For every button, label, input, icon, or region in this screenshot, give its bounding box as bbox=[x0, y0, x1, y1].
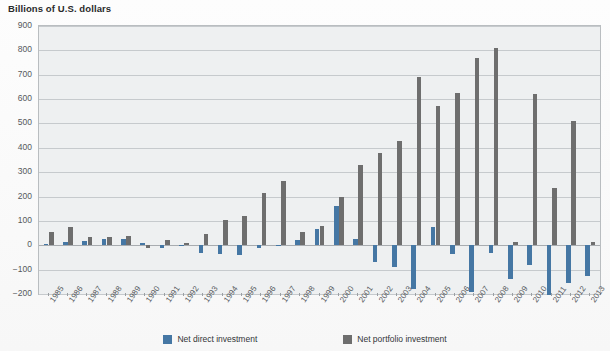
y-axis-tick--200: −200 bbox=[13, 288, 32, 298]
bar-portfolio-1987 bbox=[88, 237, 93, 246]
y-axis-tick-100: 100 bbox=[18, 215, 32, 225]
bar-direct-1987 bbox=[82, 241, 87, 245]
x-tick-mark-2008 bbox=[493, 293, 494, 296]
bar-direct-2001 bbox=[353, 239, 358, 245]
x-tick-mark-2002 bbox=[377, 293, 378, 296]
bar-direct-1994 bbox=[218, 245, 223, 254]
bar-portfolio-1988 bbox=[107, 237, 112, 246]
y-axis-tick-200: 200 bbox=[18, 191, 32, 201]
bar-portfolio-2007 bbox=[475, 58, 480, 246]
y-axis-tick-500: 500 bbox=[18, 117, 32, 127]
bar-direct-1995 bbox=[237, 245, 242, 255]
y-axis-tick-400: 400 bbox=[18, 142, 32, 152]
bar-portfolio-2002 bbox=[378, 153, 383, 246]
bar-portfolio-1998 bbox=[300, 232, 305, 245]
chart-container: Billions of U.S. dollars 900800700600500… bbox=[0, 0, 610, 351]
bar-portfolio-1996 bbox=[262, 193, 267, 245]
bar-direct-2000 bbox=[334, 206, 339, 245]
legend-item-direct[interactable]: Net direct investment bbox=[163, 334, 257, 344]
gridline-300 bbox=[39, 172, 600, 173]
bar-direct-2012 bbox=[566, 245, 571, 283]
legend-swatch-portfolio-icon bbox=[343, 335, 352, 344]
bar-direct-1988 bbox=[102, 239, 107, 245]
bar-direct-2005 bbox=[431, 227, 436, 245]
gridline-200 bbox=[39, 197, 600, 198]
bar-portfolio-1999 bbox=[320, 226, 325, 245]
legend-label-portfolio: Net portfolio investment bbox=[357, 334, 446, 344]
gridline--100 bbox=[39, 270, 600, 271]
bar-portfolio-1991 bbox=[165, 240, 170, 245]
chart-title: Billions of U.S. dollars bbox=[8, 3, 111, 14]
bar-portfolio-1985 bbox=[49, 232, 54, 245]
bar-portfolio-1997 bbox=[281, 181, 286, 246]
y-axis-tick-800: 800 bbox=[18, 44, 32, 54]
gridline-900 bbox=[39, 26, 600, 27]
bar-portfolio-1989 bbox=[126, 236, 131, 246]
x-tick-mark-2011 bbox=[551, 293, 552, 296]
bar-direct-1992 bbox=[179, 245, 184, 246]
bar-portfolio-1994 bbox=[223, 220, 228, 246]
bar-direct-1996 bbox=[257, 245, 262, 247]
bar-direct-1990 bbox=[140, 243, 145, 245]
bar-portfolio-2009 bbox=[513, 242, 518, 246]
y-axis-tick-300: 300 bbox=[18, 166, 32, 176]
bar-portfolio-2010 bbox=[533, 94, 538, 245]
bar-direct-1985 bbox=[44, 244, 49, 245]
x-tick-mark-2005 bbox=[435, 293, 436, 296]
gridline-700 bbox=[39, 75, 600, 76]
gridline-500 bbox=[39, 123, 600, 124]
bar-direct-2002 bbox=[373, 245, 378, 262]
bar-portfolio-1990 bbox=[146, 245, 151, 247]
bar-portfolio-2011 bbox=[552, 188, 557, 245]
x-tick-mark-1991 bbox=[164, 293, 165, 296]
bar-direct-2008 bbox=[489, 245, 494, 252]
y-axis: 9008007006005004003002001000−100−200 bbox=[0, 25, 36, 295]
x-tick-mark-1988 bbox=[106, 293, 107, 296]
bar-portfolio-1992 bbox=[184, 243, 189, 245]
bar-direct-1991 bbox=[160, 245, 165, 247]
gridline-400 bbox=[39, 148, 600, 149]
y-axis-tick-600: 600 bbox=[18, 93, 32, 103]
x-tick-mark-1994 bbox=[222, 293, 223, 296]
y-axis-tick--100: −100 bbox=[13, 264, 32, 274]
bar-direct-1993 bbox=[199, 245, 204, 252]
bar-portfolio-2001 bbox=[358, 165, 363, 245]
bar-direct-1999 bbox=[315, 229, 320, 245]
bar-direct-1997 bbox=[276, 245, 281, 246]
bar-portfolio-2008 bbox=[494, 48, 499, 245]
bar-portfolio-2005 bbox=[436, 106, 441, 245]
bar-direct-1998 bbox=[295, 240, 300, 245]
gridline-800 bbox=[39, 50, 600, 51]
bar-portfolio-2004 bbox=[417, 77, 422, 245]
bar-direct-2003 bbox=[392, 245, 397, 267]
x-tick-mark-1985 bbox=[48, 293, 49, 296]
bar-direct-2004 bbox=[411, 245, 416, 289]
bar-portfolio-1995 bbox=[242, 216, 247, 245]
x-tick-mark-1997 bbox=[280, 293, 281, 296]
bar-direct-1989 bbox=[121, 239, 126, 245]
bar-direct-2007 bbox=[469, 245, 474, 291]
gridline-600 bbox=[39, 99, 600, 100]
legend-item-portfolio[interactable]: Net portfolio investment bbox=[343, 334, 446, 344]
gridline-100 bbox=[39, 221, 600, 222]
bar-portfolio-2012 bbox=[571, 121, 576, 245]
bar-direct-1986 bbox=[63, 242, 68, 246]
plot-area bbox=[38, 25, 601, 295]
bar-direct-2009 bbox=[508, 245, 513, 279]
bar-direct-2010 bbox=[527, 245, 532, 264]
bar-portfolio-2003 bbox=[397, 141, 402, 246]
bar-portfolio-1986 bbox=[68, 227, 73, 245]
bar-portfolio-2013 bbox=[591, 242, 596, 246]
y-axis-tick-0: 0 bbox=[27, 239, 32, 249]
x-tick-mark-2000 bbox=[338, 293, 339, 296]
y-axis-tick-700: 700 bbox=[18, 69, 32, 79]
y-axis-tick-900: 900 bbox=[18, 20, 32, 30]
bar-direct-2006 bbox=[450, 245, 455, 254]
bar-portfolio-2006 bbox=[455, 93, 460, 245]
gridline-0 bbox=[39, 245, 600, 246]
bar-portfolio-2000 bbox=[339, 197, 344, 246]
chart-legend: Net direct investmentNet portfolio inves… bbox=[0, 330, 610, 348]
legend-label-direct: Net direct investment bbox=[177, 334, 257, 344]
x-axis: 1985198619871988198919901991199219931994… bbox=[38, 296, 601, 330]
legend-swatch-direct-icon bbox=[163, 335, 172, 344]
